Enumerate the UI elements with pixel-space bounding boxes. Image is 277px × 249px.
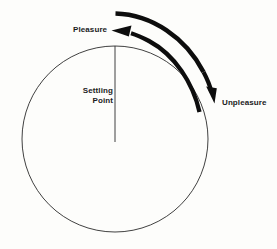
unpleasure-arrowhead — [206, 87, 217, 104]
label-unpleasure: Unpleasure — [222, 98, 267, 108]
inner-curved-arrow — [112, 26, 200, 112]
label-settling-point: Settling Point — [62, 86, 113, 105]
label-pleasure: Pleasure — [73, 25, 107, 35]
diagram-canvas — [0, 0, 277, 249]
label-settling-point-line-2: Point — [62, 96, 113, 106]
settling-point-diagram: Pleasure Unpleasure Settling Point — [0, 0, 277, 249]
pleasure-arrowhead — [112, 26, 132, 37]
label-settling-point-line-1: Settling — [62, 86, 113, 96]
